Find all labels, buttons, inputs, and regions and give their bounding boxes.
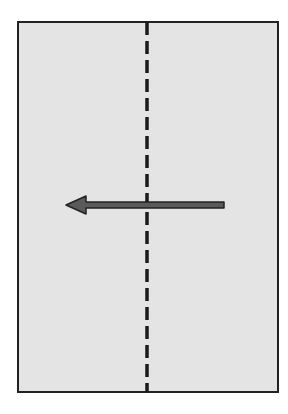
arrow-left-icon xyxy=(66,196,224,214)
diagram-canvas xyxy=(0,0,288,414)
